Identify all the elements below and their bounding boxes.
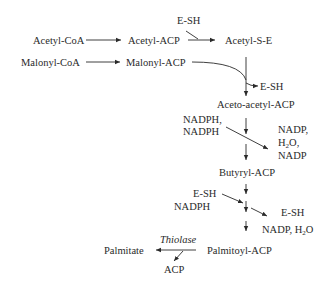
pathway-diagram: Acetyl-CoA Acetyl-ACP E-SH Acetyl-S-E Ma… [0,0,332,287]
node-nadph-1: NADPH, [183,114,222,125]
enzyme-thiolase: Thiolase [160,234,197,245]
node-esh-1: E-SH [177,15,201,26]
arrow-esh-nadph-join [222,194,243,203]
arrow-malonyl-curve [192,62,246,80]
node-butyryl-acp: Butyryl-ACP [219,167,275,178]
arrow-to-esh-release [251,208,267,216]
arrow-esh-join [186,31,198,39]
node-nadp-1: NADP, [278,124,308,135]
node-acp: ACP [164,264,185,275]
node-esh-2: E-SH [260,81,284,92]
node-h2o-1: H2O, [278,137,299,150]
node-acetyl-s-e: Acetyl-S-E [225,35,272,46]
node-palmitoyl-acp: Palmitoyl-ACP [207,245,272,256]
node-nadp-2: NADP [278,150,307,161]
node-acetyl-acp: Acetyl-ACP [128,35,180,46]
arrow-nadph-to-nadp [226,127,268,149]
node-palmitate: Palmitate [104,245,144,256]
node-nadph-2: NADPH [183,126,220,137]
node-malonyl-acp: Malonyl-ACP [126,57,186,68]
node-nadp-h2o: NADP, H2O [262,224,314,237]
node-acetyl-coa: Acetyl-CoA [33,35,85,46]
arrow-esh-release [246,83,258,86]
node-esh-3: E-SH [193,188,217,199]
arrow-to-acp [174,251,183,261]
node-acetoacetyl-acp: Aceto-acetyl-ACP [217,99,295,110]
node-malonyl-coa: Malonyl-CoA [21,57,80,68]
node-nadph-3: NADPH [174,201,211,212]
node-esh-4: E-SH [281,207,305,218]
